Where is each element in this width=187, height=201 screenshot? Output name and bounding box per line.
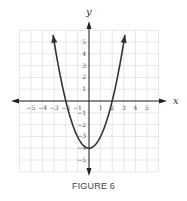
axes bbox=[11, 21, 167, 176]
x-tick-label: 4 bbox=[133, 104, 137, 111]
x-tick-label: −5 bbox=[27, 104, 36, 111]
x-tick-label: 5 bbox=[145, 104, 149, 111]
x-axis-label: x bbox=[173, 95, 179, 106]
x-tick-label: 3 bbox=[122, 104, 126, 111]
x-tick-label: −4 bbox=[38, 104, 47, 111]
y-tick-label: 1 bbox=[82, 85, 86, 92]
y-tick-label: −1 bbox=[77, 109, 86, 116]
parabola-chart: −5−4−3−2−11234554321−1−2−3−4−5 x y bbox=[0, 0, 187, 180]
x-tick-label: 1 bbox=[99, 104, 103, 111]
y-tick-label: 4 bbox=[82, 50, 86, 57]
y-tick-label: 5 bbox=[82, 38, 86, 45]
y-tick-label: 2 bbox=[82, 73, 86, 80]
y-tick-label: −2 bbox=[77, 121, 86, 128]
y-axis-label: y bbox=[85, 6, 92, 17]
figure-caption: FIGURE 6 bbox=[0, 181, 187, 191]
x-tick-label: −3 bbox=[50, 104, 59, 111]
y-tick-label: −4 bbox=[77, 144, 86, 151]
y-tick-label: 3 bbox=[82, 62, 86, 69]
y-tick-label: −5 bbox=[77, 156, 86, 163]
x-tick-label: −2 bbox=[61, 104, 70, 111]
